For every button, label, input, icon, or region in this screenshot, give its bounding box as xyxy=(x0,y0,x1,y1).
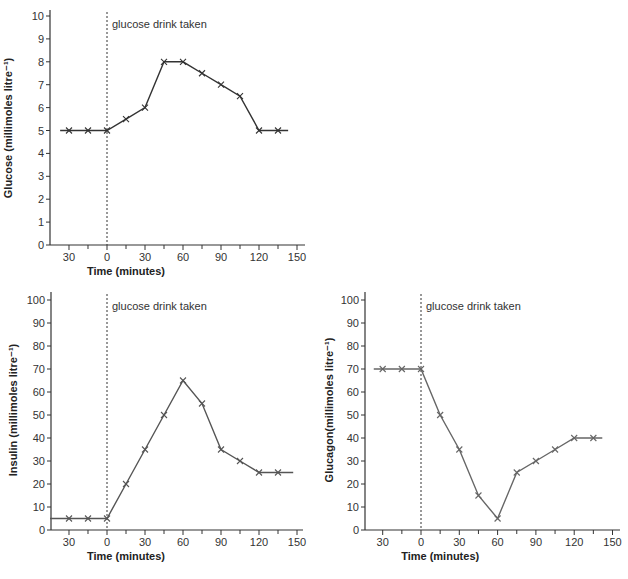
x-tick-label: 120 xyxy=(565,536,583,548)
y-tick-label: 50 xyxy=(33,409,45,421)
y-tick-label: 20 xyxy=(33,478,45,490)
x-axis-label: Time (minutes) xyxy=(87,550,165,562)
cross-marker-icon xyxy=(237,93,243,99)
x-tick-label: 150 xyxy=(603,536,621,548)
y-tick-label: 100 xyxy=(27,294,45,306)
y-tick-label: 60 xyxy=(33,386,45,398)
glucose-series-line xyxy=(60,62,288,131)
y-tick-label: 30 xyxy=(33,455,45,467)
y-tick-label: 10 xyxy=(32,10,44,22)
y-tick-label: 40 xyxy=(347,432,359,444)
x-tick-label: 90 xyxy=(530,536,542,548)
x-tick-label: 150 xyxy=(288,536,306,548)
x-tick-label: 0 xyxy=(418,536,424,548)
y-tick-label: 0 xyxy=(39,524,45,536)
y-tick-label: 3 xyxy=(38,170,44,182)
insulin-chart: 0102030405060708090100300306090120150Tim… xyxy=(7,292,306,562)
y-axis-label: Glucagon(millimoles litre⁻¹) xyxy=(323,337,335,482)
cross-marker-icon xyxy=(199,401,205,407)
cross-marker-icon xyxy=(218,447,224,453)
y-tick-label: 60 xyxy=(347,386,359,398)
glucose-chart: 012345678910300306090120150Time (minutes… xyxy=(2,10,306,277)
cross-marker-icon xyxy=(218,82,224,88)
y-tick-label: 0 xyxy=(38,239,44,251)
x-tick-label: 30 xyxy=(377,536,389,548)
y-tick-label: 0 xyxy=(353,524,359,536)
y-tick-label: 10 xyxy=(347,501,359,513)
glucagon-series-line xyxy=(374,369,603,519)
x-tick-label: 120 xyxy=(250,536,268,548)
y-tick-label: 4 xyxy=(38,147,44,159)
cross-marker-icon xyxy=(142,447,148,453)
y-tick-label: 1 xyxy=(38,216,44,228)
x-tick-label: 30 xyxy=(63,251,75,263)
cross-marker-icon xyxy=(142,105,148,111)
cross-marker-icon xyxy=(437,412,443,418)
cross-marker-icon xyxy=(180,378,186,384)
cross-marker-icon xyxy=(533,458,539,464)
glucagon-chart: 0102030405060708090100300306090120150Tim… xyxy=(323,292,622,562)
y-tick-label: 80 xyxy=(33,340,45,352)
y-axis-label: Glucose (millimoles litre⁻¹) xyxy=(2,57,14,198)
y-tick-label: 8 xyxy=(38,56,44,68)
x-tick-label: 30 xyxy=(139,251,151,263)
y-tick-label: 90 xyxy=(33,317,45,329)
hormone-response-charts: 012345678910300306090120150Time (minutes… xyxy=(0,0,628,579)
annotation-glucose-drink-taken: glucose drink taken xyxy=(112,18,207,30)
x-tick-label: 60 xyxy=(491,536,503,548)
y-tick-label: 100 xyxy=(341,294,359,306)
x-axis-label: Time (minutes) xyxy=(87,265,165,277)
x-tick-label: 30 xyxy=(63,536,75,548)
y-tick-label: 10 xyxy=(33,501,45,513)
y-tick-label: 70 xyxy=(33,363,45,375)
cross-marker-icon xyxy=(456,447,462,453)
x-tick-label: 150 xyxy=(288,251,306,263)
y-tick-label: 40 xyxy=(33,432,45,444)
x-tick-label: 120 xyxy=(250,251,268,263)
y-tick-label: 70 xyxy=(347,363,359,375)
x-tick-label: 30 xyxy=(453,536,465,548)
cross-marker-icon xyxy=(495,516,501,522)
cross-marker-icon xyxy=(199,70,205,76)
x-tick-label: 0 xyxy=(104,536,110,548)
y-tick-label: 6 xyxy=(38,102,44,114)
y-tick-label: 2 xyxy=(38,193,44,205)
annotation-glucose-drink-taken: glucose drink taken xyxy=(112,300,207,312)
cross-marker-icon xyxy=(161,412,167,418)
y-tick-label: 50 xyxy=(347,409,359,421)
x-tick-label: 30 xyxy=(139,536,151,548)
y-tick-label: 30 xyxy=(347,455,359,467)
cross-marker-icon xyxy=(514,470,520,476)
x-tick-label: 90 xyxy=(215,536,227,548)
y-tick-label: 5 xyxy=(38,125,44,137)
cross-marker-icon xyxy=(237,458,243,464)
y-tick-label: 7 xyxy=(38,79,44,91)
insulin-series-line xyxy=(50,381,293,519)
x-axis-label: Time (minutes) xyxy=(401,550,479,562)
y-tick-label: 20 xyxy=(347,478,359,490)
x-tick-label: 60 xyxy=(177,251,189,263)
y-tick-label: 9 xyxy=(38,33,44,45)
annotation-glucose-drink-taken: glucose drink taken xyxy=(426,300,521,312)
cross-marker-icon xyxy=(123,116,129,122)
y-tick-label: 90 xyxy=(347,317,359,329)
x-tick-label: 90 xyxy=(215,251,227,263)
y-tick-label: 80 xyxy=(347,340,359,352)
y-axis-label: Insulin (millimoles litre⁻¹) xyxy=(7,343,19,476)
cross-marker-icon xyxy=(475,493,481,499)
cross-marker-icon xyxy=(123,481,129,487)
cross-marker-icon xyxy=(552,447,558,453)
x-tick-label: 60 xyxy=(177,536,189,548)
x-tick-label: 0 xyxy=(104,251,110,263)
